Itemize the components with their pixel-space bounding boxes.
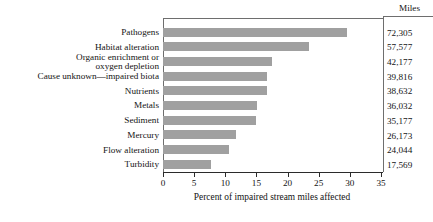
bar-row (163, 54, 381, 69)
chart-figure: PathogensHabitat alterationOrganic enric… (0, 0, 433, 222)
bar (163, 160, 211, 169)
miles-value: 72,305 (387, 28, 433, 38)
category-label: Turbidity (0, 160, 159, 169)
miles-column-header: Miles (386, 3, 433, 13)
category-label: Organic enrichment or oxygen depletion (0, 53, 159, 70)
category-label: Flow alteration (0, 146, 159, 155)
bar-row (163, 99, 381, 114)
x-tick-mark (163, 173, 164, 177)
category-label: Metals (0, 101, 159, 110)
x-tick-label: 30 (338, 178, 362, 188)
bar (163, 101, 257, 110)
miles-value: 24,044 (387, 145, 433, 155)
miles-value: 36,032 (387, 101, 433, 111)
bar-row (163, 69, 381, 84)
miles-value: 26,173 (387, 131, 433, 141)
x-tick-label: 5 (182, 178, 206, 188)
x-tick-mark (194, 173, 195, 177)
x-tick-mark (256, 173, 257, 177)
miles-value: 38,632 (387, 86, 433, 96)
x-tick-label: 15 (244, 178, 268, 188)
bar (163, 130, 236, 139)
bar (163, 42, 309, 51)
x-tick-label: 35 (369, 178, 393, 188)
x-tick-label: 0 (151, 178, 175, 188)
bar-row (163, 157, 381, 172)
miles-value: 39,816 (387, 72, 433, 82)
miles-value: 57,577 (387, 42, 433, 52)
category-label: Cause unknown—impaired biota (0, 72, 159, 81)
x-tick-label: 10 (213, 178, 237, 188)
category-label-column: PathogensHabitat alterationOrganic enric… (0, 25, 159, 172)
x-tick-mark (319, 173, 320, 177)
category-label: Pathogens (0, 28, 159, 37)
bar (163, 72, 267, 81)
plot-area (163, 18, 381, 172)
bar-row (163, 143, 381, 158)
x-axis-title: Percent of impaired stream miles affecte… (163, 192, 381, 202)
miles-value: 17,569 (387, 160, 433, 170)
miles-header-rule (384, 16, 433, 17)
miles-value: 35,177 (387, 116, 433, 126)
x-tick-label: 25 (307, 178, 331, 188)
x-tick-mark (225, 173, 226, 177)
x-tick-mark (288, 173, 289, 177)
bar-row (163, 40, 381, 55)
miles-column-divider (383, 16, 384, 172)
bar-row (163, 25, 381, 40)
category-label: Mercury (0, 131, 159, 140)
bar (163, 57, 272, 66)
category-label: Nutrients (0, 87, 159, 96)
miles-value-column: 72,30557,57742,17739,81638,63236,03235,1… (387, 25, 433, 172)
category-label: Habitat alteration (0, 43, 159, 52)
bar (163, 116, 256, 125)
x-tick-mark (381, 173, 382, 177)
x-tick-label: 20 (276, 178, 300, 188)
bar (163, 86, 267, 95)
bar-row (163, 128, 381, 143)
category-label: Sediment (0, 116, 159, 125)
bar-row (163, 84, 381, 99)
bar (163, 28, 347, 37)
bar-row (163, 113, 381, 128)
x-tick-mark (350, 173, 351, 177)
bar (163, 145, 229, 154)
miles-value: 42,177 (387, 57, 433, 67)
